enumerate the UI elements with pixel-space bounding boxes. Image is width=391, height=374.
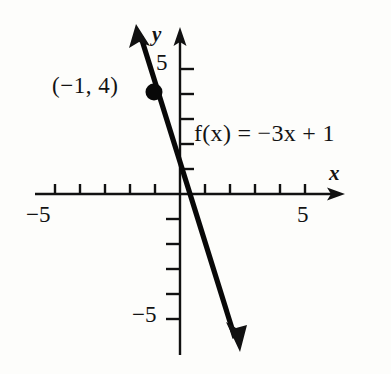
y-tick-label-5: 5 <box>156 51 168 74</box>
plotted-point-marker <box>146 84 163 101</box>
function-equation-label: f(x) = −3x + 1 <box>194 121 335 145</box>
point-coordinate-label: (−1, 4) <box>52 74 118 97</box>
x-tick-label-5: 5 <box>297 203 309 226</box>
function-line-arrowhead-lower <box>226 322 247 352</box>
function-line-arrowhead-upper <box>129 24 150 48</box>
coordinate-plane-svg <box>0 0 391 374</box>
graph-figure: y 5 −5 x 5 −5 (−1, 4) f(x) = −3x + 1 <box>0 0 391 374</box>
x-tick-label--5: −5 <box>26 203 50 226</box>
x-axis-label: x <box>329 163 340 184</box>
y-tick-label--5: −5 <box>132 303 156 326</box>
y-axis-label: y <box>152 24 161 45</box>
